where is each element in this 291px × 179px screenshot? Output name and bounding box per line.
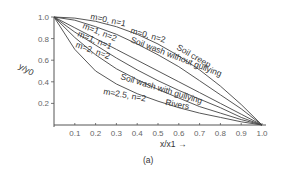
x-tick-label: 0.4 — [132, 129, 144, 138]
chart: 0.10.20.30.40.50.60.70.80.91.00.20.40.60… — [0, 0, 291, 179]
x-tick-label: 0.1 — [69, 129, 81, 138]
x-tick-label: 0.9 — [236, 129, 248, 138]
y-tick-label: 0.6 — [38, 56, 50, 65]
x-tick-label: 0.5 — [152, 129, 164, 138]
curve-labels: m=0, n=1 m=0, n=2 m=1, n=2 m=1, n=1 m=2,… — [74, 11, 223, 111]
y-tick-label: 0.8 — [38, 35, 50, 44]
annotation-soil-wash-without: Soil wash without gullying — [129, 35, 223, 79]
y-tick-label: 0.4 — [38, 78, 50, 87]
x-tick-label: 0.7 — [194, 129, 206, 138]
x-axis-label: x/x1 → — [160, 139, 186, 149]
y-tick-label: 1.0 — [38, 13, 50, 22]
y-axis-label: y/y0 — [17, 61, 36, 78]
panel-label: (a) — [143, 155, 154, 165]
x-tick-label: 0.6 — [173, 129, 185, 138]
x-tick-label: 1.0 — [256, 129, 268, 138]
label-m25n2: m=2.5, n=2 — [103, 86, 147, 103]
y-tick-label: 0.2 — [38, 99, 50, 108]
x-tick-label: 0.3 — [111, 129, 123, 138]
x-tick-label: 0.8 — [215, 129, 227, 138]
x-tick-label: 0.2 — [90, 129, 102, 138]
svg-text:y/y0: y/y0 — [17, 61, 36, 78]
